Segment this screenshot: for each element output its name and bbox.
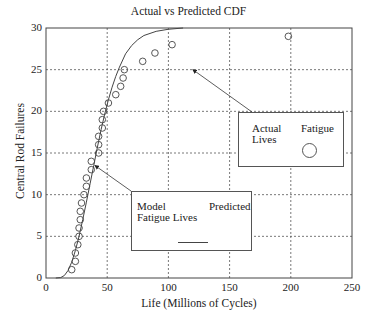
x-tick: 150	[218, 281, 242, 293]
x-axis-label: Life (Millions of Cycles)	[46, 297, 352, 309]
actual-data-point	[78, 200, 85, 207]
legend-actual-line2: Lives	[252, 133, 276, 145]
actual-data-point	[83, 175, 90, 182]
actual-data-point	[120, 75, 127, 82]
y-tick: 0	[14, 271, 42, 283]
arrow-model	[95, 166, 131, 192]
legend-actual-right: Fatigue	[301, 122, 334, 134]
x-tick: 200	[279, 281, 303, 293]
actual-data-point	[112, 91, 119, 98]
actual-data-point	[83, 183, 90, 190]
actual-data-point	[169, 41, 176, 48]
line-marker-icon	[178, 242, 208, 243]
x-tick: 250	[340, 281, 364, 293]
legend-model-right: Predicted	[209, 200, 251, 212]
legend-model-line2: Fatigue Lives	[137, 211, 197, 223]
circle-marker-icon	[302, 143, 317, 158]
actual-data-point	[95, 133, 102, 140]
y-tick: 15	[14, 146, 42, 158]
actual-data-point	[117, 83, 124, 90]
actual-data-point	[72, 258, 79, 265]
y-tick: 5	[14, 229, 42, 241]
y-tick: 20	[14, 104, 42, 116]
actual-data-point	[152, 50, 159, 57]
arrow-actual	[193, 70, 252, 112]
actual-data-point	[139, 58, 146, 65]
legend-model-predicted: Model Fatigue Lives Predicted	[131, 191, 252, 251]
actual-data-point	[88, 166, 95, 173]
x-tick: 50	[95, 281, 119, 293]
legend-actual-lives: Actual Lives Fatigue	[238, 112, 344, 167]
actual-data-point	[77, 208, 84, 215]
y-tick: 30	[14, 21, 42, 33]
y-tick: 10	[14, 188, 42, 200]
actual-data-point	[99, 116, 106, 123]
actual-data-point	[68, 266, 75, 273]
y-tick: 25	[14, 63, 42, 75]
actual-data-point	[88, 158, 95, 165]
x-tick: 100	[156, 281, 180, 293]
